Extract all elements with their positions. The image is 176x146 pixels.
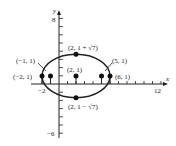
- y-axis-arrow-icon: [57, 10, 61, 15]
- point-bottom-covertex: [74, 95, 79, 100]
- point-center: [74, 74, 79, 79]
- label-left-focus: (−1, 1): [16, 57, 36, 65]
- x-min-tick-label: −2: [38, 87, 46, 95]
- x-max-tick-label: 12: [154, 87, 162, 95]
- label-bottom-covertex: (2, 1 − √7): [68, 103, 99, 111]
- label-center: (2, 1): [67, 66, 83, 74]
- x-axis-label: x: [165, 75, 170, 83]
- ellipse-graph: x y −2 12 8 −6 (2, 1 + √7) (2, 1 − √7) (…: [0, 0, 176, 146]
- y-max-tick-label: 8: [52, 16, 56, 24]
- point-top-covertex: [74, 52, 79, 57]
- label-right-vertex: (6, 1): [115, 73, 131, 81]
- point-right-focus: [99, 74, 104, 79]
- y-min-tick-label: −6: [47, 130, 55, 138]
- point-right-vertex: [108, 74, 113, 79]
- point-left-vertex: [40, 74, 45, 79]
- label-right-focus: (5, 1): [112, 57, 128, 65]
- y-axis-label: y: [52, 7, 57, 15]
- label-left-vertex: (−2, 1): [13, 73, 33, 81]
- label-top-covertex: (2, 1 + √7): [68, 44, 99, 52]
- point-left-focus: [48, 74, 53, 79]
